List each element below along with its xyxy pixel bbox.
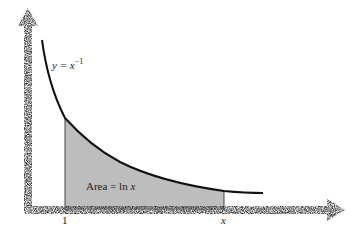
curve-label: y = x−1 bbox=[52, 57, 83, 71]
area-label-text: Area = ln bbox=[86, 180, 130, 192]
area-label-var: x bbox=[130, 180, 135, 192]
x-axis bbox=[24, 206, 332, 214]
x-tick-1: 1 bbox=[62, 214, 68, 226]
x-tick-x: x bbox=[221, 214, 226, 226]
x-axis-arrowhead bbox=[327, 199, 345, 221]
diagram-canvas bbox=[0, 0, 363, 239]
y-axis bbox=[24, 22, 32, 214]
curve-label-exponent: −1 bbox=[75, 57, 84, 66]
curve-label-text: y = x bbox=[52, 59, 75, 71]
y-axis-arrowhead bbox=[18, 8, 38, 26]
area-label: Area = ln x bbox=[86, 180, 135, 192]
shaded-area bbox=[65, 118, 224, 210]
